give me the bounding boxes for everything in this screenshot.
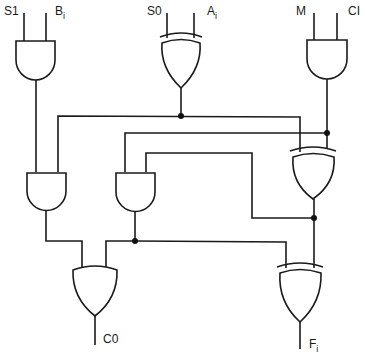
junction-dot — [324, 130, 330, 136]
and-gate-s1-bi — [16, 13, 55, 80]
and-gate-middle — [116, 173, 155, 212]
label-c0: C0 — [103, 333, 118, 345]
wire-andmid-to-xorfi — [135, 241, 286, 268]
junction-dot — [132, 238, 138, 244]
and-gate-left — [27, 173, 66, 211]
label-s0: S0 — [147, 5, 162, 17]
xor-gate-s0-ai — [160, 13, 202, 88]
xor-gate-fi — [277, 263, 323, 322]
xor-gate-middle — [290, 147, 336, 199]
logic-circuit-diagram — [0, 0, 365, 359]
label-ci: CI — [348, 5, 360, 17]
wire-xormid-feedback — [146, 153, 314, 218]
junction-dot — [311, 215, 317, 221]
label-m: M — [296, 5, 306, 17]
label-bi: Bi — [55, 5, 65, 21]
and-gate-m-ci — [307, 13, 347, 79]
label-ai: Ai — [207, 5, 217, 21]
junction-dot — [178, 113, 184, 119]
wire-andmid-to-or — [106, 241, 135, 271]
label-s1: S1 — [4, 5, 19, 17]
label-fi: Fi — [309, 338, 318, 354]
wire-xor1-bus — [58, 116, 300, 172]
or-gate-c0 — [73, 266, 117, 316]
wire-andleft-out — [46, 210, 82, 271]
